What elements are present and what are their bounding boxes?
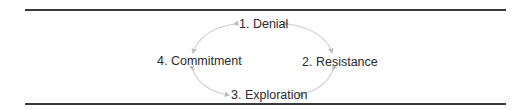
node-commitment: 4. Commitment [157,54,242,68]
node-denial: 1. Denial [239,17,288,31]
arc-denial-resistance [288,24,332,53]
arc-denial-commitment [193,24,234,53]
arc-exploration-commitment [193,70,229,95]
node-exploration: 3. Exploration [231,88,307,102]
node-resistance: 2. Resistance [302,55,378,69]
